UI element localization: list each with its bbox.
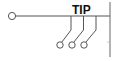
contact-terminal-circle xyxy=(57,42,63,48)
contact-terminal-circle xyxy=(81,42,87,48)
tip-schematic: TIP xyxy=(0,0,116,61)
marker-dot xyxy=(107,41,108,42)
contact-terminal-circle xyxy=(69,42,75,48)
tip-label: TIP xyxy=(72,3,91,17)
input-terminal-circle xyxy=(8,12,15,19)
